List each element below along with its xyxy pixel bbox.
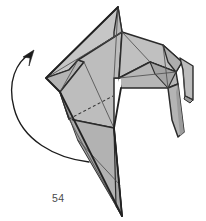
notch-cutout: [119, 79, 121, 127]
facet-right-tab: [180, 58, 193, 100]
step-number-label: 54: [52, 193, 64, 204]
origami-figure: 54: [0, 0, 206, 221]
origami-diagram: [0, 0, 206, 221]
paper-model: [46, 7, 193, 216]
